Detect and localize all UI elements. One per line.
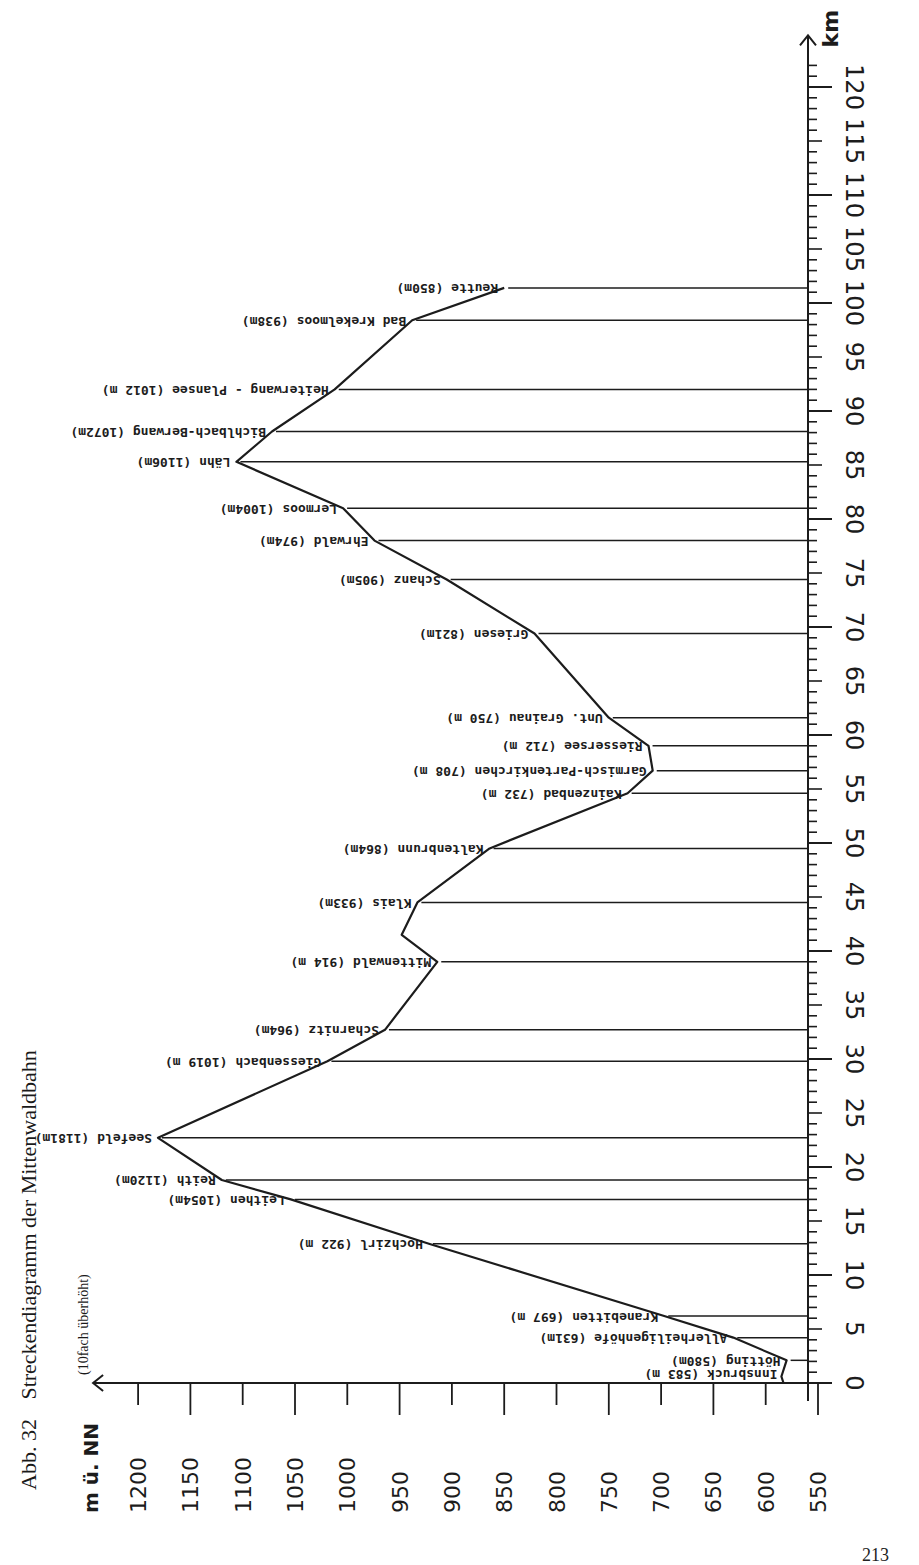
km-tick-label: 15 xyxy=(840,1206,868,1237)
km-tick-label: 80 xyxy=(840,504,868,535)
km-tick-label: 115 xyxy=(840,118,868,164)
station-label: Schanz (905m) xyxy=(339,573,441,588)
km-axis-label: km xyxy=(818,10,843,48)
station-label: Heiterwang - Plansee (1012 m) xyxy=(102,383,329,398)
station-label: Reith (1120m) xyxy=(114,1173,216,1188)
station-label: Bad Krekelmoos (938m) xyxy=(242,314,406,329)
elevation-tick-label: 850 xyxy=(492,1471,517,1513)
elevation-tick-label: 900 xyxy=(440,1471,465,1513)
elevation-tick-label: 1150 xyxy=(178,1457,203,1513)
station-label: Bichlbach-Berwang (1072m) xyxy=(70,425,266,440)
station-labels: Innsbruck (583 m)Hötting (580m)Allerheil… xyxy=(35,281,781,1381)
km-tick-label: 50 xyxy=(840,828,868,859)
elevation-tick-label: 1200 xyxy=(126,1457,151,1513)
elevation-tick-label: 1100 xyxy=(231,1457,256,1513)
km-tick-label: 100 xyxy=(840,280,868,326)
km-tick-label: 90 xyxy=(840,396,868,427)
station-label: Mittenwald (914 m) xyxy=(290,955,431,970)
station-label: Hochzirl (922 m) xyxy=(298,1237,423,1252)
station-label: Leithen (1054m) xyxy=(167,1193,284,1208)
elevation-tick-label: 550 xyxy=(806,1471,831,1513)
elevation-tick-label: 800 xyxy=(545,1471,570,1513)
km-tick-label: 35 xyxy=(840,990,868,1021)
elevation-tick-label: 1000 xyxy=(335,1457,360,1513)
profile-layer xyxy=(158,288,787,1383)
elevation-tick-label: 950 xyxy=(388,1471,413,1513)
station-label: Lähn (1106m) xyxy=(137,455,231,470)
station-label: Scharnitz (964m) xyxy=(254,1023,379,1038)
km-tick-label: 45 xyxy=(840,882,868,913)
km-tick-label: 75 xyxy=(840,558,868,589)
km-tick-label: 70 xyxy=(840,612,868,643)
km-tick-label: 20 xyxy=(840,1152,868,1183)
km-tick-label: 120 xyxy=(840,64,868,110)
elevation-tick-label: 750 xyxy=(597,1471,622,1513)
km-tick-label: 10 xyxy=(840,1260,868,1291)
elevation-axis-label: m ü. NN xyxy=(79,1423,103,1513)
station-label: Giessenbach (1019 m) xyxy=(165,1055,322,1070)
station-label: Riessersee (712 m) xyxy=(502,739,643,754)
km-tick-label: 105 xyxy=(840,226,868,272)
elevation-tick-label: 650 xyxy=(701,1471,726,1513)
elevation-tick-label: 1050 xyxy=(283,1457,308,1513)
station-label: Allerheiligenhöfe (631m) xyxy=(539,1331,727,1346)
station-label: Reutte (850m) xyxy=(396,281,498,296)
station-label: Griesen (821m) xyxy=(419,627,529,642)
station-label: Hötting (580m) xyxy=(671,1354,781,1369)
km-tick-label: 30 xyxy=(840,1044,868,1075)
km-tick-label: 40 xyxy=(840,936,868,967)
station-label: Ehrwald (974m) xyxy=(259,534,369,549)
km-tick-label: 60 xyxy=(840,720,868,751)
km-tick-label: 55 xyxy=(840,774,868,805)
elevation-tick-label: 600 xyxy=(754,1471,779,1513)
km-tick-label: 5 xyxy=(840,1321,868,1336)
elevation-tick-label: 700 xyxy=(649,1471,674,1513)
km-tick-label: 65 xyxy=(840,666,868,697)
km-tick-label: 110 xyxy=(840,172,868,218)
station-label: Unt. Grainau (750 m) xyxy=(446,711,603,726)
km-tick-label: 0 xyxy=(840,1375,868,1390)
station-label: Klais (933m) xyxy=(317,896,411,911)
axes: km05101520253035404550556065707580859095… xyxy=(79,10,868,1513)
station-label: Garmisch-Partenkirchen (708 m) xyxy=(412,764,647,779)
km-tick-label: 85 xyxy=(840,450,868,481)
station-label: Kaltenbrunn (864m) xyxy=(343,842,484,857)
station-label: Kranebitten (697 m) xyxy=(510,1310,659,1325)
km-tick-label: 25 xyxy=(840,1098,868,1129)
station-label: Kainzenbad (732 m) xyxy=(481,787,622,802)
station-label: Seefeld (1181m) xyxy=(35,1131,152,1146)
km-tick-label: 95 xyxy=(840,342,868,373)
profile-line xyxy=(158,288,787,1383)
station-label: Lermoos (1004m) xyxy=(220,502,337,517)
